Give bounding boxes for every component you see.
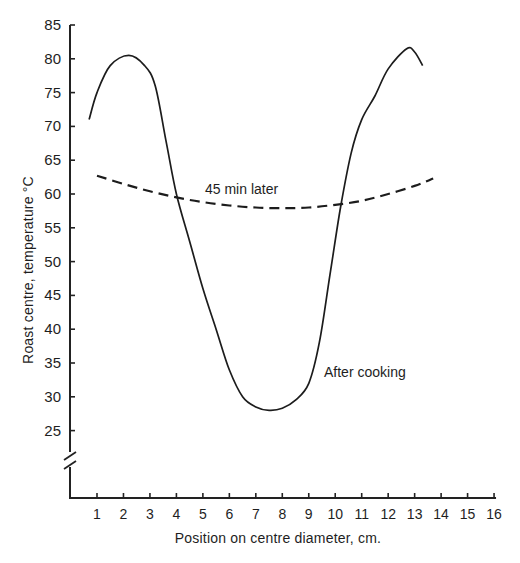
y-tick-label: 50 bbox=[44, 253, 61, 270]
x-tick-label: 13 bbox=[407, 506, 423, 522]
x-tick-label: 12 bbox=[380, 506, 396, 522]
line-chart: 25303540455055606570758085 1234567891011… bbox=[0, 0, 520, 563]
x-tick-label: 3 bbox=[146, 506, 154, 522]
y-axis-title: Roast centre, temperature °C bbox=[20, 176, 36, 364]
y-tick-label: 30 bbox=[44, 388, 61, 405]
y-tick-label: 65 bbox=[44, 151, 61, 168]
x-axis-title: Position on centre diameter, cm. bbox=[175, 530, 381, 546]
y-tick-label: 35 bbox=[44, 354, 61, 371]
y-tick-label: 85 bbox=[44, 16, 61, 33]
x-tick-label: 16 bbox=[486, 506, 502, 522]
x-tick-label: 1 bbox=[93, 506, 101, 522]
x-tick-label: 6 bbox=[225, 506, 233, 522]
y-tick-label: 60 bbox=[44, 185, 61, 202]
x-tick-label: 7 bbox=[252, 506, 260, 522]
series-group bbox=[89, 48, 433, 411]
y-axis: 25303540455055606570758085 bbox=[44, 16, 76, 498]
y-tick-label: 70 bbox=[44, 117, 61, 134]
x-tick-label: 11 bbox=[354, 506, 369, 522]
y-tick-label: 40 bbox=[44, 320, 61, 337]
y-tick-label: 80 bbox=[44, 50, 61, 67]
x-tick-label: 4 bbox=[173, 506, 181, 522]
y-tick-label: 45 bbox=[44, 286, 61, 303]
x-tick-label: 14 bbox=[433, 506, 449, 522]
y-tick-label: 25 bbox=[44, 422, 61, 439]
x-tick-label: 8 bbox=[278, 506, 286, 522]
x-tick-label: 10 bbox=[327, 506, 343, 522]
x-tick-label: 15 bbox=[460, 506, 476, 522]
x-tick-label: 2 bbox=[120, 506, 128, 522]
x-axis: 12345678910111213141516 bbox=[69, 493, 502, 522]
x-tick-label: 5 bbox=[199, 506, 207, 522]
axis-break-mark bbox=[64, 452, 76, 460]
series-after-cooking-line bbox=[89, 48, 423, 411]
label-after-cooking: After cooking bbox=[324, 364, 406, 380]
y-tick-label: 75 bbox=[44, 84, 61, 101]
label-45-min-later: 45 min later bbox=[205, 181, 278, 197]
y-tick-label: 55 bbox=[44, 219, 61, 236]
x-tick-label: 9 bbox=[305, 506, 313, 522]
